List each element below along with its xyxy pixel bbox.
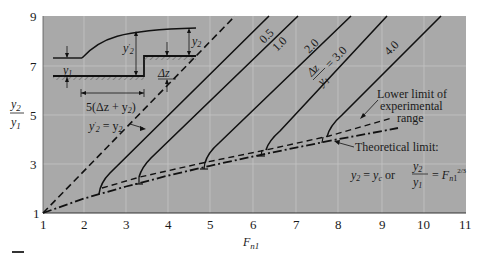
svg-text:9: 9: [379, 217, 386, 232]
x-tick-labels: 1 2 3 4 5 6 7 8 9 10 11: [40, 217, 472, 232]
svg-text:6: 6: [250, 217, 257, 232]
x-axis-label: Fn1: [242, 235, 259, 251]
svg-text:8: 8: [335, 217, 342, 232]
svg-text:range: range: [397, 111, 424, 125]
footnote-mark: [12, 251, 24, 253]
svg-text:2: 2: [81, 217, 88, 232]
svg-text:y1: y1: [10, 115, 21, 131]
chart: 9 7 5 3 1 1 2 3 4 5 6 7 8 9 10 11 y2 y1 …: [0, 0, 481, 255]
svg-text:1: 1: [40, 217, 47, 232]
svg-text:1: 1: [33, 206, 40, 221]
svg-text:7: 7: [293, 217, 300, 232]
svg-text:3: 3: [123, 217, 130, 232]
svg-text:5: 5: [30, 108, 37, 123]
svg-text:5: 5: [207, 217, 214, 232]
svg-text:9: 9: [30, 9, 37, 24]
svg-text:y'2 = y2: y'2 = y2: [88, 119, 123, 134]
svg-text:7: 7: [30, 59, 37, 74]
svg-text:y2: y2: [10, 97, 21, 113]
svg-text:11: 11: [459, 217, 472, 232]
svg-text:3: 3: [30, 157, 37, 172]
svg-text:Δz: Δz: [157, 66, 170, 80]
svg-text:4: 4: [165, 217, 172, 232]
svg-text:10: 10: [417, 217, 430, 232]
svg-text:Theoretical limit:: Theoretical limit:: [355, 140, 439, 154]
y-tick-labels: 9 7 5 3 1: [30, 9, 40, 221]
y-axis-label: y2 y1: [10, 97, 24, 131]
